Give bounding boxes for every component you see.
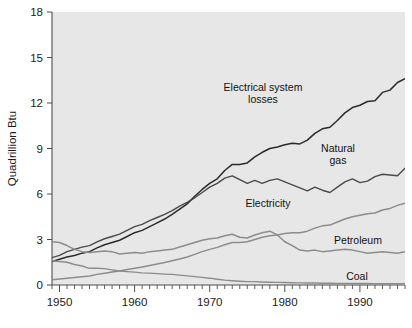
- x-tick-label: 1950: [47, 296, 73, 308]
- y-tick-label: 6: [37, 188, 43, 200]
- series-group: [52, 79, 405, 284]
- x-tick-label: 1960: [122, 296, 148, 308]
- x-tick-label: 1990: [347, 296, 373, 308]
- x-tick-label: 1970: [197, 296, 223, 308]
- series-label-coal: Coal: [346, 270, 368, 282]
- y-tick-label: 12: [30, 97, 43, 109]
- series-label-electricity: Electricity: [246, 197, 292, 209]
- y-tick-label: 18: [30, 6, 43, 18]
- y-tick-label: 15: [30, 52, 43, 64]
- y-axis-title: Quadrillion Btu: [6, 111, 18, 186]
- x-tick-label: 1980: [272, 296, 298, 308]
- y-tick-label: 3: [37, 234, 43, 246]
- y-tick-label: 0: [37, 279, 43, 291]
- chart-container: 036912151819501960197019801990Quadrillio…: [0, 0, 412, 328]
- series-label-electrical-system-losses: Electrical systemlosses: [224, 81, 303, 105]
- series-label-petroleum: Petroleum: [334, 234, 382, 246]
- y-tick-label: 9: [37, 143, 43, 155]
- series-label-natural-gas: Naturalgas: [321, 142, 355, 166]
- line-chart: 036912151819501960197019801990Quadrillio…: [0, 0, 412, 328]
